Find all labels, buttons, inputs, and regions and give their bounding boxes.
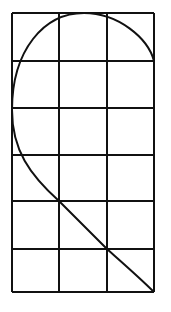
- curve-line: [12, 13, 154, 292]
- grid-lines: [12, 13, 154, 292]
- grid-curve-diagram: [0, 0, 171, 312]
